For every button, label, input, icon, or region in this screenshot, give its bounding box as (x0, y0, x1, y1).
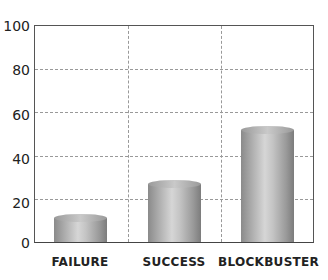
x-label-blockbuster: BLOCKBUSTER (218, 255, 318, 269)
gridline-60 (35, 112, 313, 113)
y-tick-60: 60 (0, 107, 30, 123)
bar-success (148, 184, 201, 242)
vgridline-2 (221, 26, 222, 242)
gridline-80 (35, 69, 313, 70)
x-label-failure: FAILURE (30, 255, 130, 269)
bar-blockbuster (241, 130, 294, 242)
y-tick-20: 20 (0, 195, 30, 211)
y-tick-100: 100 (0, 18, 30, 34)
plot-area (34, 25, 314, 243)
y-tick-80: 80 (0, 62, 30, 78)
y-tick-40: 40 (0, 151, 30, 167)
x-label-success: SUCCESS (124, 255, 224, 269)
bar-failure (54, 218, 107, 242)
y-tick-0: 0 (0, 235, 30, 251)
vgridline-1 (128, 26, 129, 242)
